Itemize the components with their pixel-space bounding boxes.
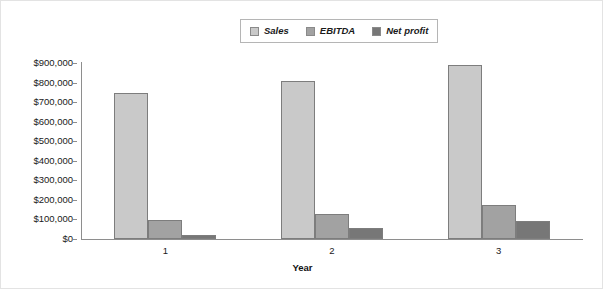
legend-swatch-icon [372, 27, 381, 36]
y-axis-tick-label: $0 [62, 234, 73, 244]
y-axis-tick-mark [73, 83, 77, 84]
y-axis-tick-label: $600,000 [33, 117, 73, 127]
bar-net-profit-year-3[interactable] [516, 221, 550, 239]
chart-legend: SalesEBITDANet profit [240, 19, 438, 43]
y-axis-tick-mark [73, 239, 77, 240]
y-axis-tick-mark [73, 63, 77, 64]
bar-chart: SalesEBITDANet profit $0$100,000$200,000… [0, 0, 603, 289]
y-axis-tick-mark [73, 161, 77, 162]
bar-net-profit-year-2[interactable] [349, 228, 383, 239]
y-axis-tick-mark [73, 102, 77, 103]
x-axis-tick-label: 3 [496, 246, 501, 256]
x-axis-tick-label: 1 [163, 246, 168, 256]
y-axis-tick-labels: $0$100,000$200,000$300,000$400,000$500,0… [1, 63, 73, 239]
legend-item[interactable]: Sales [250, 26, 289, 36]
y-axis-tick-label: $800,000 [33, 78, 73, 88]
bar-ebitda-year-2[interactable] [315, 214, 349, 239]
plot-area [82, 63, 582, 239]
y-axis-tick-label: $300,000 [33, 176, 73, 186]
y-axis-tick-mark [73, 200, 77, 201]
legend-item-label: Sales [264, 26, 289, 36]
legend-item[interactable]: Net profit [372, 26, 428, 36]
bar-ebitda-year-1[interactable] [148, 220, 182, 239]
legend-item[interactable]: EBITDA [306, 26, 355, 36]
bar-sales-year-1[interactable] [114, 93, 148, 239]
y-axis-tick-label: $400,000 [33, 156, 73, 166]
bar-sales-year-2[interactable] [281, 81, 315, 239]
y-axis-tick-label: $200,000 [33, 195, 73, 205]
y-axis-tick-label: $100,000 [33, 215, 73, 225]
legend-swatch-icon [250, 27, 259, 36]
y-axis-tick-mark [73, 180, 77, 181]
y-axis-tick-mark [73, 122, 77, 123]
y-axis-tick-label: $900,000 [33, 58, 73, 68]
x-axis-tick-label: 2 [329, 246, 334, 256]
y-axis-tick-label: $700,000 [33, 97, 73, 107]
y-axis-tick-mark [73, 141, 77, 142]
y-axis-tick-label: $500,000 [33, 136, 73, 146]
bar-net-profit-year-1[interactable] [182, 235, 216, 239]
bar-sales-year-3[interactable] [448, 65, 482, 239]
legend-swatch-icon [306, 27, 315, 36]
x-axis-title: Year [1, 263, 603, 273]
bar-ebitda-year-3[interactable] [482, 205, 516, 239]
x-axis-line [81, 239, 583, 240]
legend-item-label: Net profit [386, 26, 428, 36]
legend-item-label: EBITDA [320, 26, 355, 36]
y-axis-tick-mark [73, 219, 77, 220]
